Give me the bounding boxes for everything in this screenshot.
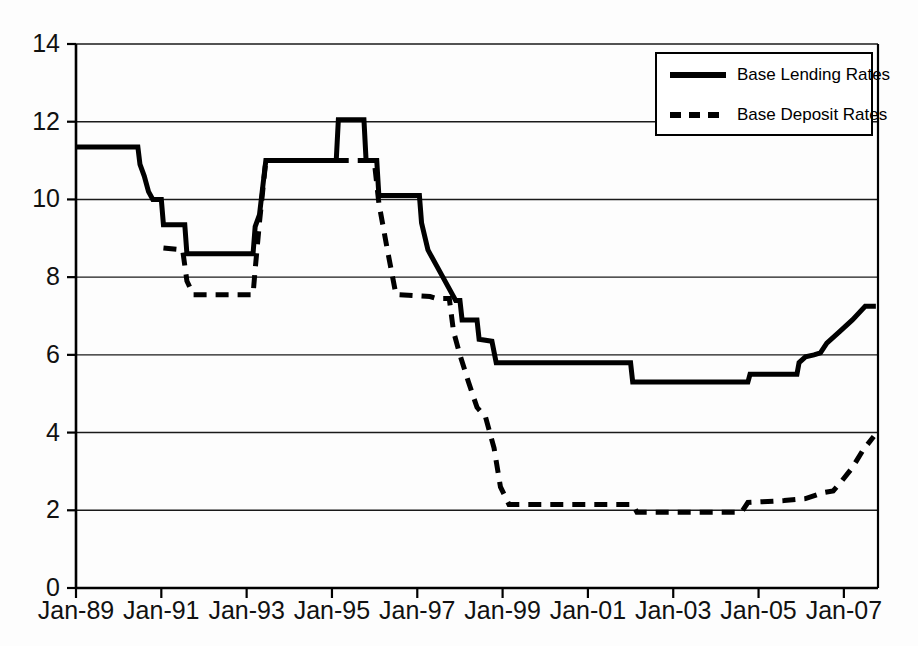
series-line-deposit [163,161,873,513]
legend-item-deposit: Base Deposit Rates [657,96,871,134]
series-line-lending [76,120,876,382]
y-axis-tick-label: 12 [14,109,60,134]
chart-container: 02468101214 Jan-89Jan-91Jan-93Jan-95Jan-… [0,0,918,646]
y-axis-tick-label: 6 [14,342,60,367]
y-axis-tick-label: 10 [14,186,60,211]
x-axis-tick-label: Jan-07 [784,598,904,623]
y-axis-tick-label: 4 [14,420,60,445]
y-axis-ticks-group [67,44,76,588]
y-axis-tick-label: 2 [14,497,60,522]
y-axis-tick-label: 8 [14,264,60,289]
y-axis-tick-label: 14 [14,31,60,56]
legend-label-deposit: Base Deposit Rates [737,105,887,125]
legend-label-lending: Base Lending Rates [737,65,890,85]
data-series-group [76,120,876,512]
chart-legend: Base Lending Rates Base Deposit Rates [655,52,873,136]
legend-item-lending: Base Lending Rates [657,56,871,94]
dashed-line-swatch [669,108,727,122]
solid-line-swatch [669,68,727,82]
